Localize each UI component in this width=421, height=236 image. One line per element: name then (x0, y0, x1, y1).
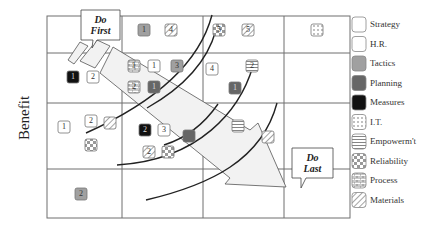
item-number: 1 (58, 122, 70, 132)
legend-label: Process (370, 175, 398, 185)
item-reliability (162, 146, 174, 158)
item-number: 2 (87, 72, 99, 82)
item-planning (183, 130, 195, 142)
do-first-label: Do First (81, 14, 120, 36)
do-last-label: Do Last (292, 152, 333, 174)
item-materials (104, 117, 116, 129)
item-number: 2 (139, 125, 151, 135)
diagram-canvas (0, 0, 421, 236)
legend-swatch-gray (352, 56, 366, 71)
item-number: 5 (213, 25, 225, 35)
legend-swatch-black (352, 95, 366, 110)
legend-label: Strategy (370, 19, 400, 29)
item-materials (262, 131, 274, 143)
do-first-line2: First (81, 25, 120, 36)
legend-label: Tactics (370, 58, 395, 68)
legend-label: Reliability (370, 156, 408, 166)
item-number: 2 (246, 61, 258, 71)
item-number: 2 (75, 189, 87, 199)
item-number: 4 (165, 25, 177, 35)
item-number: 1 (148, 82, 160, 92)
legend-swatch-dark-gray (352, 76, 366, 91)
item-it (311, 24, 323, 36)
do-last-line2: Last (292, 163, 333, 174)
item-number: 2 (143, 147, 155, 157)
legend-label: Planning (370, 78, 402, 88)
item-reliability (85, 139, 97, 151)
do-last-line1: Do (292, 152, 333, 163)
legend-swatch-diagonal (352, 193, 366, 208)
item-number: 1 (128, 61, 140, 71)
item-number: 2 (128, 82, 140, 92)
item-number: 2 (85, 116, 97, 126)
legend-label: Materials (370, 195, 404, 205)
item-number: 3 (158, 125, 170, 135)
legend-swatch-brick (352, 173, 366, 188)
item-number: 1 (67, 72, 79, 82)
item-number: 4 (206, 64, 218, 74)
legend-swatch-checker (352, 154, 366, 169)
do-first-line1: Do (81, 14, 120, 25)
item-number: 1 (148, 61, 160, 71)
item-number: 5 (242, 25, 254, 35)
legend-label: I.T. (370, 117, 382, 127)
legend-label: Measures (370, 97, 405, 107)
legend-swatch-white (352, 37, 366, 52)
legend-label: H.R. (370, 39, 387, 49)
item-number: 1 (229, 83, 241, 93)
legend-swatch-white (352, 17, 366, 32)
y-axis-label: Benefit (16, 96, 33, 140)
item-number: 1 (138, 25, 150, 35)
priority-matrix-diagram: Benefit Do First Do Last StrategyH.R.Tac… (0, 0, 421, 236)
legend-swatch-hlines (352, 134, 366, 149)
legend-swatch-dots (352, 115, 366, 130)
legend-label: Empowerm't (370, 136, 416, 146)
legend-layer (352, 17, 366, 208)
item-empowermt (232, 120, 244, 132)
item-number: 3 (171, 61, 183, 71)
